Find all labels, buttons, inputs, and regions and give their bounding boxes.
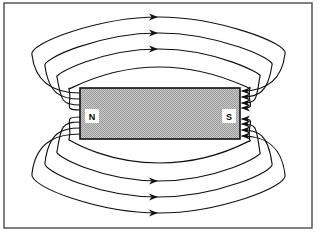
- magnetic-field-diagram: N S: [0, 0, 320, 234]
- north-pole-label: N: [85, 109, 99, 123]
- north-pole-letter: N: [89, 112, 96, 122]
- magnet-body: [80, 88, 240, 139]
- south-pole-letter: S: [226, 112, 232, 122]
- south-pole-label: S: [222, 109, 236, 123]
- diagram-canvas: N S: [0, 0, 320, 234]
- bar-magnet: [80, 88, 240, 139]
